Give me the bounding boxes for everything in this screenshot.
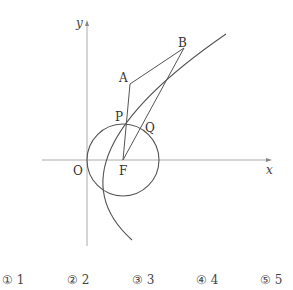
choice-3[interactable]: ③ 3 [132, 273, 154, 287]
label-B: B [178, 36, 187, 50]
x-axis-arrow-icon [266, 158, 272, 162]
segment-BF [123, 48, 184, 160]
y-axis-arrow-icon [85, 20, 89, 26]
label-F: F [119, 164, 127, 178]
choice-mark: ② [67, 273, 78, 287]
choice-mark: ③ [132, 273, 143, 287]
segment-AB [130, 48, 184, 84]
choice-mark: ④ [196, 273, 207, 287]
x-axis-label: x [266, 163, 273, 177]
choice-value: 5 [275, 273, 283, 287]
diagram-canvas: y x O F A B P Q [0, 0, 293, 290]
choice-mark: ⑤ [260, 273, 271, 287]
answer-choices: ① 1 ② 2 ③ 3 ④ 4 ⑤ 5 [0, 273, 293, 289]
choice-1[interactable]: ① 1 [2, 273, 24, 287]
choice-mark: ① [2, 273, 13, 287]
label-A: A [118, 71, 128, 85]
label-P: P [115, 110, 123, 124]
y-axis-label: y [75, 16, 83, 30]
label-O: O [73, 164, 83, 178]
choice-value: 2 [82, 273, 90, 287]
label-Q: Q [145, 121, 155, 135]
choice-2[interactable]: ② 2 [67, 273, 89, 287]
choice-value: 4 [211, 273, 219, 287]
parabola [103, 34, 226, 240]
choice-5[interactable]: ⑤ 5 [260, 273, 282, 287]
choice-4[interactable]: ④ 4 [196, 273, 218, 287]
choice-value: 1 [17, 273, 25, 287]
choice-value: 3 [147, 273, 155, 287]
